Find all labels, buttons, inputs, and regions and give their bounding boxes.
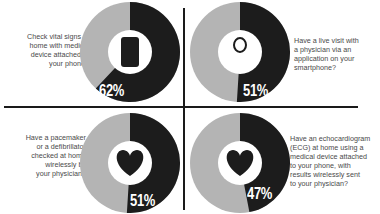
vertical-divider: [183, 8, 185, 210]
question-line: to your physician?: [290, 179, 380, 188]
percent-label-live-visit: 51%: [243, 82, 268, 100]
question-line: your phone?: [6, 59, 89, 68]
question-line: a physician via an: [294, 45, 380, 54]
question-line: application on your: [294, 54, 380, 63]
question-line: device attached to: [6, 50, 89, 59]
question-line: your physician?: [6, 169, 86, 178]
question-line: Have an echocardiogram: [290, 134, 380, 143]
question-line: (ECG) at home using a: [290, 143, 380, 152]
donut-chart-live-visit: [190, 2, 290, 102]
percent-label-ecg: 47%: [247, 185, 272, 203]
question-line: Check vital signs at: [6, 32, 89, 41]
question-live-visit: Have a live visit with a physician via a…: [294, 36, 380, 72]
question-pacemaker: Have a pacemaker or a defibrillator chec…: [6, 133, 86, 178]
question-line: checked at home: [6, 151, 86, 160]
question-line: results wirelessly sent: [290, 170, 380, 179]
question-vital-signs: Check vital signs at home with medical d…: [6, 32, 89, 68]
percent-label-vital-signs: 62%: [99, 82, 124, 100]
question-line: Have a live visit with: [294, 36, 380, 45]
question-line: smartphone?: [294, 63, 380, 72]
donut-chart-ecg: ECG: [190, 113, 290, 213]
question-line: wirelessly by: [6, 160, 86, 169]
percent-label-pacemaker: 51%: [130, 192, 155, 210]
question-line: to your phone, with: [290, 161, 380, 170]
question-line: home with medical: [6, 41, 89, 50]
smartphone-heartbeat-icon: [121, 37, 139, 67]
question-ecg: Have an echocardiogram (ECG) at home usi…: [290, 134, 380, 188]
donut-chart-vital-signs: [80, 2, 180, 102]
doctor-stethoscope-icon: [234, 38, 246, 52]
question-line: medical device attached: [290, 152, 380, 161]
question-line: Have a pacemaker: [6, 133, 86, 142]
horizontal-divider: [4, 106, 358, 108]
question-line: or a defibrillator: [6, 142, 86, 151]
